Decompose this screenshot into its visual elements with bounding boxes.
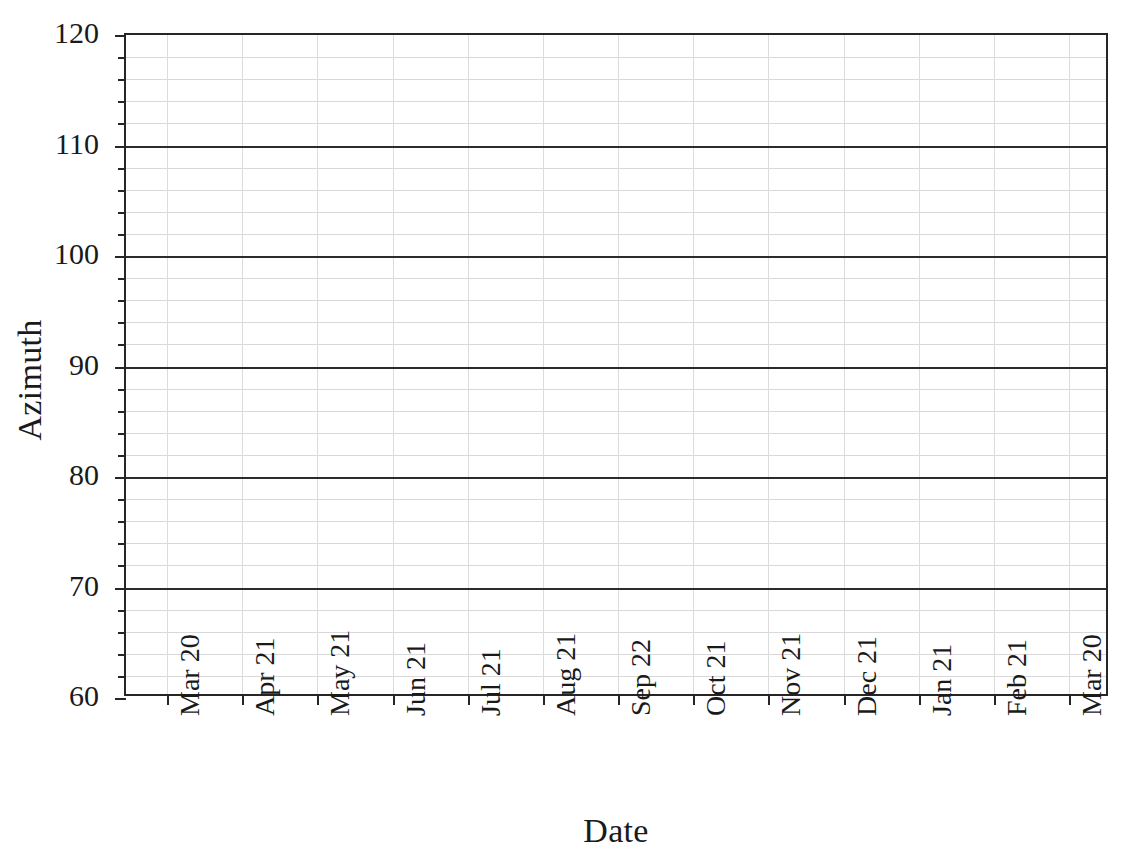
y-axis-minor-tick (118, 411, 126, 413)
gridline-minor-horizontal (126, 411, 1106, 412)
gridline-minor-horizontal (126, 190, 1106, 191)
y-axis-minor-tick (118, 57, 126, 59)
gridline-major-horizontal (126, 256, 1106, 258)
gridline-vertical (317, 35, 318, 694)
y-axis-minor-tick (118, 521, 126, 523)
gridline-minor-horizontal (126, 278, 1106, 279)
x-axis-tick-label: May 21 (326, 630, 354, 716)
y-axis-tick-label: 120 (29, 18, 99, 48)
y-axis-minor-tick (118, 300, 126, 302)
gridline-minor-horizontal (126, 632, 1106, 633)
y-axis-minor-tick (118, 123, 126, 125)
gridline-minor-horizontal (126, 168, 1106, 169)
y-axis-tick-label: 70 (29, 571, 99, 601)
x-axis-tick-label: Mar 20 (1078, 634, 1106, 716)
y-axis-tick-label: 90 (29, 350, 99, 380)
x-axis-tick-label: Apr 21 (251, 637, 279, 716)
gridline-vertical (994, 35, 995, 694)
gridline-major-horizontal (126, 367, 1106, 369)
gridline-minor-horizontal (126, 234, 1106, 235)
x-axis-tick (242, 694, 244, 705)
y-axis-minor-tick (118, 190, 126, 192)
y-axis-minor-tick (118, 234, 126, 236)
gridline-vertical (468, 35, 469, 694)
x-axis-tick (618, 694, 620, 705)
x-axis-tick (768, 694, 770, 705)
x-axis-tick-label: Sep 22 (627, 639, 655, 716)
y-axis-minor-tick (118, 565, 126, 567)
y-axis-minor-tick (118, 278, 126, 280)
y-axis-major-tick (115, 146, 126, 148)
y-axis-minor-tick (118, 389, 126, 391)
y-axis-tick-label: 100 (29, 239, 99, 269)
gridline-vertical (393, 35, 394, 694)
x-axis-tick (844, 694, 846, 705)
y-axis-minor-tick (118, 499, 126, 501)
x-axis-tick-label: Aug 21 (552, 633, 580, 716)
y-axis-minor-tick (118, 101, 126, 103)
gridline-minor-horizontal (126, 79, 1106, 80)
x-axis-tick (1069, 694, 1071, 705)
gridline-minor-horizontal (126, 610, 1106, 611)
x-axis-tick (317, 694, 319, 705)
y-axis-tick-label: 80 (29, 460, 99, 490)
x-axis-tick (919, 694, 921, 705)
gridline-minor-horizontal (126, 499, 1106, 500)
y-axis-minor-tick (118, 610, 126, 612)
plot-area (124, 33, 1108, 696)
y-axis-minor-tick (118, 632, 126, 634)
gridline-major-horizontal (126, 588, 1106, 590)
x-axis-tick-label: Jun 21 (402, 642, 430, 716)
gridline-minor-horizontal (126, 101, 1106, 102)
x-axis-tick-label: Mar 20 (176, 634, 204, 716)
x-axis-tick-label: Dec 21 (853, 636, 881, 716)
gridline-major-horizontal (126, 146, 1106, 148)
gridline-minor-horizontal (126, 565, 1106, 566)
y-axis-major-tick (115, 477, 126, 479)
gridline-minor-horizontal (126, 455, 1106, 456)
y-axis-minor-tick (118, 676, 126, 678)
gridline-vertical (167, 35, 168, 694)
y-axis-major-tick (115, 256, 126, 258)
x-axis-tick-label: Nov 21 (777, 633, 805, 716)
x-axis-tick (994, 694, 996, 705)
x-axis-tick-label: Jul 21 (477, 648, 505, 716)
gridline-minor-horizontal (126, 300, 1106, 301)
y-axis-major-tick (115, 588, 126, 590)
y-axis-minor-tick (118, 344, 126, 346)
y-axis-minor-tick (118, 543, 126, 545)
x-axis-tick-label: Feb 21 (1003, 639, 1031, 716)
gridline-minor-horizontal (126, 389, 1106, 390)
chart-figure: Azimuth 60708090100110120 Mar 20Apr 21Ma… (0, 0, 1125, 867)
y-axis-minor-tick (118, 455, 126, 457)
gridline-minor-horizontal (126, 123, 1106, 124)
gridline-minor-horizontal (126, 521, 1106, 522)
gridline-minor-horizontal (126, 212, 1106, 213)
gridline-minor-horizontal (126, 433, 1106, 434)
x-axis-tick-label: Jan 21 (928, 644, 956, 716)
x-axis-tick-label: Oct 21 (702, 641, 730, 716)
gridline-vertical (693, 35, 694, 694)
y-axis-major-tick (115, 35, 126, 37)
gridline-vertical (543, 35, 544, 694)
y-axis-major-tick (115, 698, 126, 700)
y-axis-minor-tick (118, 654, 126, 656)
x-axis-tick (543, 694, 545, 705)
gridline-vertical (618, 35, 619, 694)
x-axis-tick (468, 694, 470, 705)
y-axis-major-tick (115, 367, 126, 369)
gridline-major-horizontal (126, 477, 1106, 479)
gridline-vertical (242, 35, 243, 694)
gridline-vertical (768, 35, 769, 694)
y-axis-tick-label: 110 (29, 129, 99, 159)
y-axis-minor-tick (118, 168, 126, 170)
gridline-vertical (1069, 35, 1070, 694)
gridline-minor-horizontal (126, 322, 1106, 323)
x-axis-tick (393, 694, 395, 705)
gridline-minor-horizontal (126, 344, 1106, 345)
gridline-vertical (844, 35, 845, 694)
y-axis-minor-tick (118, 433, 126, 435)
y-axis-minor-tick (118, 322, 126, 324)
y-axis-minor-tick (118, 212, 126, 214)
y-axis-minor-tick (118, 79, 126, 81)
